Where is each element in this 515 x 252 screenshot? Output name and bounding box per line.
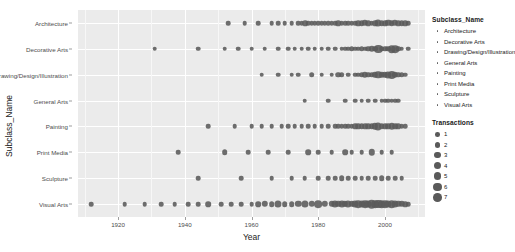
size-legend-item[interactable]: 1	[432, 129, 504, 140]
color-legend-item[interactable]: Visual Arts	[432, 100, 504, 111]
data-point	[259, 124, 264, 129]
x-axis-tick	[185, 217, 186, 220]
data-point	[289, 176, 294, 181]
data-point	[399, 47, 404, 52]
size-legend-item[interactable]: 7	[432, 192, 504, 203]
y-axis-label-general-arts: General Arts	[34, 97, 68, 104]
y-axis-label-visual-arts: Visual Arts	[39, 201, 68, 208]
legend-dot-icon	[432, 47, 443, 58]
gridline-vertical	[252, 10, 253, 217]
data-point	[333, 47, 338, 52]
size-legend-item[interactable]: 4	[432, 161, 504, 172]
gridline-vertical	[185, 10, 186, 217]
data-point	[386, 176, 391, 181]
size-legend-item[interactable]: 2	[432, 140, 504, 151]
legend-size-dot-icon	[432, 192, 443, 203]
y-axis-tick	[69, 178, 72, 179]
x-axis-label-1940: 1940	[178, 221, 192, 228]
data-point	[283, 21, 288, 26]
data-point	[339, 72, 345, 78]
data-point	[229, 202, 234, 207]
y-axis-tick	[69, 48, 72, 49]
data-point	[306, 124, 311, 129]
data-point	[196, 47, 201, 52]
legend-dot-icon	[432, 79, 443, 90]
x-axis-label-1920: 1920	[111, 221, 125, 228]
color-legend-item[interactable]: Decorative Arts	[432, 37, 504, 48]
data-point	[205, 201, 211, 207]
color-legend-item[interactable]: General Arts	[432, 58, 504, 69]
data-point	[322, 201, 328, 207]
color-legend-item[interactable]: Architecture	[432, 26, 504, 37]
data-point	[122, 202, 127, 207]
data-point	[366, 98, 371, 103]
data-point	[239, 176, 244, 181]
data-point	[256, 21, 261, 26]
y-axis-title-text: Subclass_Name	[4, 95, 14, 157]
data-point	[223, 47, 228, 52]
size-legend-item[interactable]: 6	[432, 182, 504, 193]
size-legend-label: 5	[444, 173, 447, 179]
gridline-vertical	[318, 10, 319, 217]
data-point	[269, 124, 274, 129]
data-point	[293, 124, 298, 129]
data-point	[249, 47, 254, 52]
legend-size-dot-icon	[432, 182, 443, 193]
data-point	[276, 21, 281, 26]
legend-dot-icon	[432, 58, 443, 69]
data-point	[269, 201, 275, 207]
gridline-vertical-minor	[85, 10, 86, 217]
data-point	[333, 176, 338, 181]
data-point	[303, 176, 308, 181]
legend-size-dot-icon	[432, 140, 443, 151]
color-legend-items: ArchitectureDecorative ArtsDrawing/Desig…	[432, 26, 504, 110]
y-axis-tick	[69, 22, 72, 23]
color-legend-label: Decorative Arts	[444, 39, 485, 45]
size-legend-item[interactable]: 5	[432, 171, 504, 182]
color-legend-label: Print Media	[444, 81, 474, 87]
data-point	[276, 72, 281, 77]
data-point	[326, 98, 331, 103]
data-point	[286, 47, 291, 52]
legend-dot-icon	[432, 68, 443, 79]
legend-dot-icon	[432, 100, 443, 111]
plot-panel	[78, 10, 425, 217]
data-point	[262, 201, 268, 207]
data-point	[346, 72, 351, 77]
color-legend-label: Visual Arts	[444, 102, 472, 108]
color-legend-label: Drawing/Design/Illustration	[444, 49, 515, 55]
data-point	[326, 176, 331, 181]
data-point	[266, 150, 271, 155]
data-point	[366, 176, 371, 181]
data-point	[299, 47, 304, 52]
gridline-vertical-minor	[151, 10, 152, 217]
legend-size-dot-icon	[432, 161, 443, 172]
data-point	[279, 124, 284, 129]
data-point	[249, 202, 254, 207]
legend-size-dot-icon	[432, 150, 443, 161]
size-legend-item[interactable]: 3	[432, 150, 504, 161]
data-point	[313, 47, 318, 52]
color-legend-item[interactable]: Drawing/Design/Illustration	[432, 47, 504, 58]
color-legend-item[interactable]: Painting	[432, 68, 504, 79]
data-point	[373, 176, 378, 181]
data-point	[196, 202, 201, 207]
data-point	[368, 149, 374, 155]
data-point	[349, 150, 354, 155]
legend-dot-icon	[432, 37, 443, 48]
data-point	[359, 98, 364, 103]
data-point	[249, 124, 254, 129]
data-point	[373, 98, 378, 103]
x-axis-tick	[118, 217, 119, 220]
color-legend-item[interactable]: Sculpture	[432, 89, 504, 100]
size-legend-label: 4	[444, 163, 447, 169]
size-legend-title: Transactions	[432, 119, 504, 126]
color-legend-label: Sculpture	[444, 91, 469, 97]
color-legend-label: Architecture	[444, 28, 476, 34]
data-point	[353, 176, 358, 181]
data-point	[286, 124, 291, 129]
data-point	[316, 176, 321, 181]
data-point	[306, 47, 311, 52]
color-legend-item[interactable]: Print Media	[432, 79, 504, 90]
gridline-vertical	[118, 10, 119, 217]
